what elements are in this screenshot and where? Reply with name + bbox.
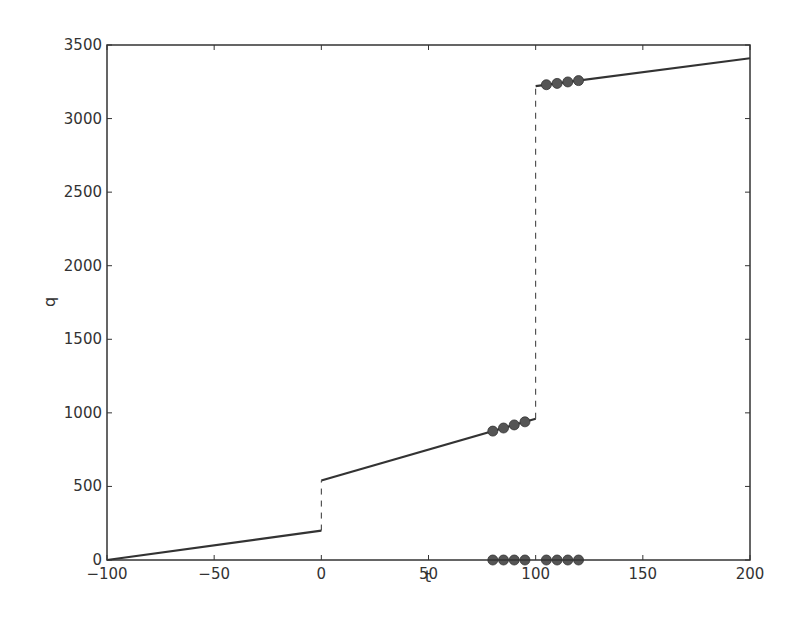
- x-tick-label: 150: [629, 565, 658, 583]
- data-point-marker: [574, 76, 584, 86]
- y-tick-label: 3000: [64, 110, 102, 128]
- x-axis-label: t: [425, 567, 431, 586]
- x-tick-label: −50: [198, 565, 230, 583]
- y-tick-label: 1000: [64, 404, 102, 422]
- x-tick-label: 0: [317, 565, 327, 583]
- y-tick-label: 500: [73, 477, 102, 495]
- x-tick-label: 200: [736, 565, 765, 583]
- data-point-marker: [499, 423, 509, 433]
- data-point-marker: [520, 417, 530, 427]
- axis-ticks: −100−50050100150200050010001500200025003…: [64, 36, 765, 583]
- y-axis-label: q: [40, 297, 59, 307]
- y-tick-label: 1500: [64, 330, 102, 348]
- plot-area: [107, 58, 750, 565]
- x-tick-label: 100: [521, 565, 550, 583]
- y-tick-label: 0: [92, 551, 102, 569]
- y-tick-label: 3500: [64, 36, 102, 54]
- data-point-marker: [541, 80, 551, 90]
- line-chart: −100−50050100150200050010001500200025003…: [0, 0, 800, 629]
- axes-frame: [107, 45, 750, 560]
- data-point-marker: [563, 77, 573, 87]
- data-point-marker: [488, 426, 498, 436]
- y-tick-label: 2000: [64, 257, 102, 275]
- data-point-marker: [509, 420, 519, 430]
- data-point-marker: [552, 78, 562, 88]
- y-tick-label: 2500: [64, 183, 102, 201]
